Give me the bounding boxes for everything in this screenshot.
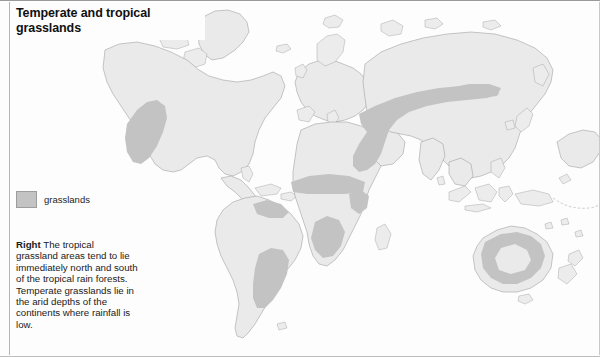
figure-caption: Right The tropical grassland areas tend … <box>16 239 138 330</box>
grassland-cerrado-chaco-pampas <box>253 248 289 308</box>
pacific-islands-3 <box>575 230 583 237</box>
iceland <box>276 44 291 53</box>
novaya-zemlya <box>381 20 403 36</box>
greenland <box>198 10 249 60</box>
page-frame: .land{fill:#eaeaea;stroke:#9b9b9b;stroke… <box>0 0 600 357</box>
pacific-islands-2 <box>561 218 569 225</box>
india <box>419 138 445 180</box>
page-title: Temperate and tropical grasslands <box>16 6 196 36</box>
legend-label-grasslands: grasslands <box>44 194 90 205</box>
grasslands-swatch-icon <box>16 191 37 208</box>
map-legend: grasslands <box>16 191 90 208</box>
svalbard <box>323 15 343 28</box>
scandinavia <box>317 34 345 66</box>
aleutian-dashed-line <box>553 198 599 208</box>
sulawesi <box>499 186 513 202</box>
new-zealand-south <box>558 264 577 284</box>
florida <box>241 166 253 182</box>
madagascar <box>375 224 391 250</box>
tasmania <box>518 294 533 304</box>
aleutian-islands <box>559 174 571 184</box>
new-siberian-islands <box>483 20 501 30</box>
alaska-wrap <box>557 130 599 168</box>
caribbean-cuba <box>255 184 281 196</box>
new-guinea <box>515 190 553 206</box>
pacific-islands <box>545 222 553 229</box>
korea <box>505 120 515 130</box>
falklands <box>277 322 287 330</box>
new-zealand-north <box>568 250 583 266</box>
sri-lanka <box>437 176 445 185</box>
java <box>465 204 491 212</box>
caption-lead: Right <box>16 239 41 250</box>
caption-body: The tropical grassland areas tend to lie… <box>16 239 138 330</box>
severnaya-zemlya <box>425 18 443 29</box>
borneo <box>475 184 497 202</box>
sumatra <box>449 186 471 202</box>
